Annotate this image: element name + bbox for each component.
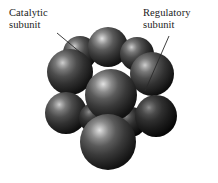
catalytic-label-line2: subunit — [9, 19, 48, 31]
regulatory-subunit-label: Regulatory subunit — [143, 7, 191, 30]
regulatory-label-line2: subunit — [143, 19, 191, 31]
subunit-sphere — [80, 114, 136, 170]
subunit-sphere — [135, 95, 177, 137]
subunit-sphere-group — [45, 27, 177, 170]
figure-container: Catalytic subunit Regulatory subunit — [0, 0, 218, 183]
catalytic-subunit-label: Catalytic subunit — [9, 7, 48, 30]
regulatory-label-line1: Regulatory — [143, 7, 191, 19]
subunit-sphere — [85, 69, 137, 121]
catalytic-label-line1: Catalytic — [9, 7, 48, 19]
